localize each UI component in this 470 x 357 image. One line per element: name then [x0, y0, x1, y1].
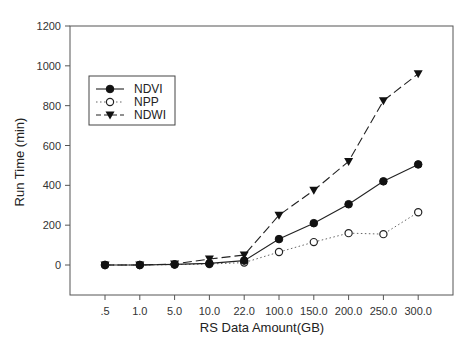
legend-label: NDVI: [134, 82, 163, 96]
plot-area: [70, 26, 453, 295]
series-npp: [101, 209, 421, 269]
data-point: [345, 200, 353, 208]
x-tick-label: 250.0: [370, 305, 398, 317]
data-point: [106, 98, 113, 105]
data-point: [310, 238, 317, 245]
x-tick-label: .5: [100, 305, 109, 317]
data-point: [414, 161, 422, 169]
data-point: [275, 248, 282, 255]
legend-label: NPP: [134, 95, 159, 109]
x-tick-label: 300.0: [404, 305, 432, 317]
legend: NDVINPPNDWI: [89, 76, 175, 125]
x-tick-label: 150.0: [300, 305, 328, 317]
data-point: [380, 178, 388, 186]
y-tick-label: 400: [43, 179, 61, 191]
x-axis: .51.05.010.022.0100.0150.0200.0250.0300.…: [100, 295, 432, 317]
data-point: [415, 209, 422, 216]
y-tick-label: 1000: [37, 60, 61, 72]
series-line: [105, 164, 418, 265]
legend-label: NDWI: [134, 108, 166, 122]
y-tick-label: 0: [55, 259, 61, 271]
y-tick-label: 600: [43, 140, 61, 152]
data-point: [309, 187, 318, 195]
x-tick-label: 200.0: [335, 305, 363, 317]
data-point: [275, 235, 283, 243]
data-point: [310, 219, 318, 227]
data-point: [379, 97, 388, 105]
data-point: [380, 231, 387, 238]
y-axis: 020040060080010001200: [37, 20, 70, 271]
x-tick-label: 1.0: [132, 305, 147, 317]
y-tick-label: 1200: [37, 20, 61, 32]
data-point: [345, 230, 352, 237]
y-tick-label: 800: [43, 100, 61, 112]
line-chart: 020040060080010001200 .51.05.010.022.010…: [0, 0, 470, 357]
plot-border: [70, 26, 453, 295]
data-point: [414, 70, 423, 78]
y-tick-label: 200: [43, 219, 61, 231]
x-tick-label: 5.0: [167, 305, 182, 317]
x-axis-title: RS Data Amount(GB): [200, 320, 324, 335]
series-ndvi: [101, 161, 422, 269]
series-line: [105, 212, 418, 265]
x-tick-label: 100.0: [265, 305, 293, 317]
y-axis-title: Run Time (min): [12, 118, 27, 207]
x-tick-label: 22.0: [233, 305, 254, 317]
x-tick-label: 10.0: [199, 305, 220, 317]
data-point: [106, 85, 114, 93]
